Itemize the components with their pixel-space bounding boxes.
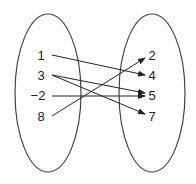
domain-element-1: 1 bbox=[37, 48, 44, 63]
arrow-8-to-2 bbox=[52, 58, 145, 116]
arrow-3-to-7 bbox=[52, 75, 145, 114]
domain-element-3: −2 bbox=[31, 88, 46, 103]
domain-element-2: 3 bbox=[37, 68, 44, 83]
range-element-2: 4 bbox=[148, 68, 155, 83]
arrow-3-to-5 bbox=[52, 75, 145, 93]
mapping-diagram: 1 3 −2 8 2 4 5 7 bbox=[0, 0, 196, 184]
range-element-1: 2 bbox=[148, 48, 155, 63]
range-element-4: 7 bbox=[148, 109, 155, 124]
domain-element-4: 8 bbox=[37, 109, 44, 124]
arrow-1-to-4 bbox=[52, 55, 145, 75]
range-element-3: 5 bbox=[148, 88, 155, 103]
domain-set-ellipse bbox=[15, 14, 81, 172]
